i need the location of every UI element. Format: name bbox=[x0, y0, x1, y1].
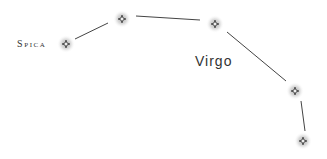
star-icon bbox=[294, 132, 312, 150]
constellation-line bbox=[75, 23, 108, 39]
star-icon bbox=[57, 35, 75, 53]
star-icon bbox=[286, 82, 304, 100]
constellation-stars bbox=[57, 10, 312, 150]
constellation-lines bbox=[75, 16, 305, 131]
constellation-line bbox=[136, 16, 200, 20]
star-label-spica: Spica bbox=[17, 38, 47, 49]
constellation-line bbox=[301, 101, 305, 131]
star-icon bbox=[113, 10, 131, 28]
constellation-line bbox=[227, 32, 286, 81]
star-icon bbox=[206, 15, 224, 33]
constellation-canvas bbox=[0, 0, 327, 159]
constellation-diagram: Spica Virgo bbox=[0, 0, 327, 159]
constellation-title: Virgo bbox=[195, 53, 232, 69]
